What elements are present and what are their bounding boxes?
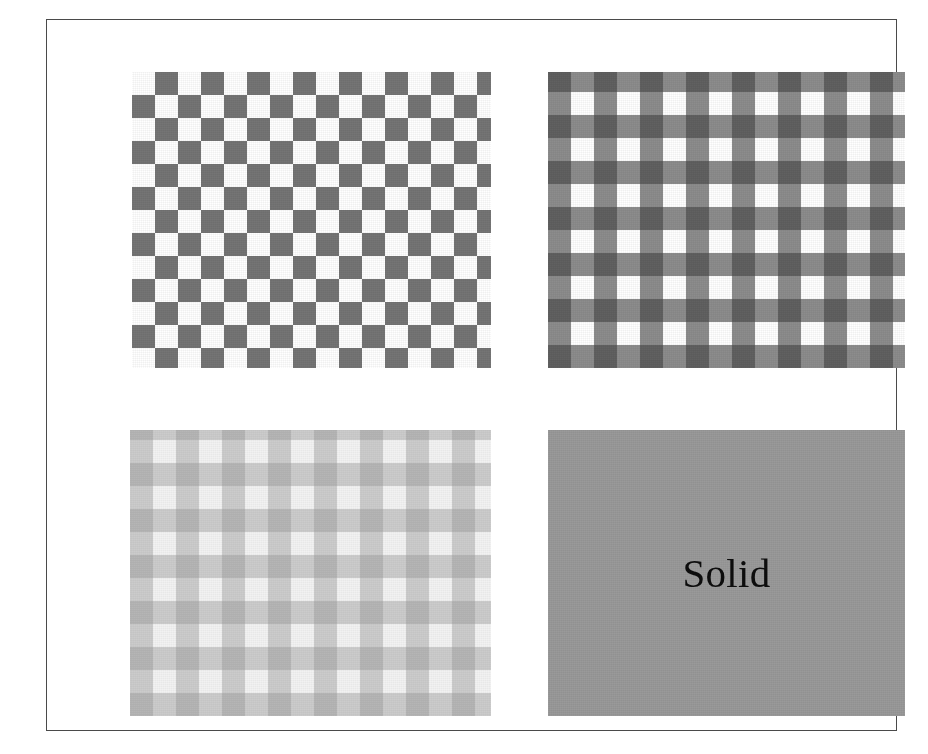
sparse-checkerboard-swatch [132, 72, 491, 368]
low-contrast-gingham-swatch [130, 430, 491, 716]
solid-gray-swatch: Solid [548, 430, 905, 716]
paper-grain-overlay [132, 72, 491, 368]
dense-gingham-swatch [548, 72, 905, 368]
paper-grain-overlay [130, 430, 491, 716]
paper-grain-overlay [548, 72, 905, 368]
figure-frame-border: Solid [46, 19, 897, 731]
solid-swatch-label: Solid [682, 553, 770, 594]
figure-root: Solid [0, 0, 928, 754]
